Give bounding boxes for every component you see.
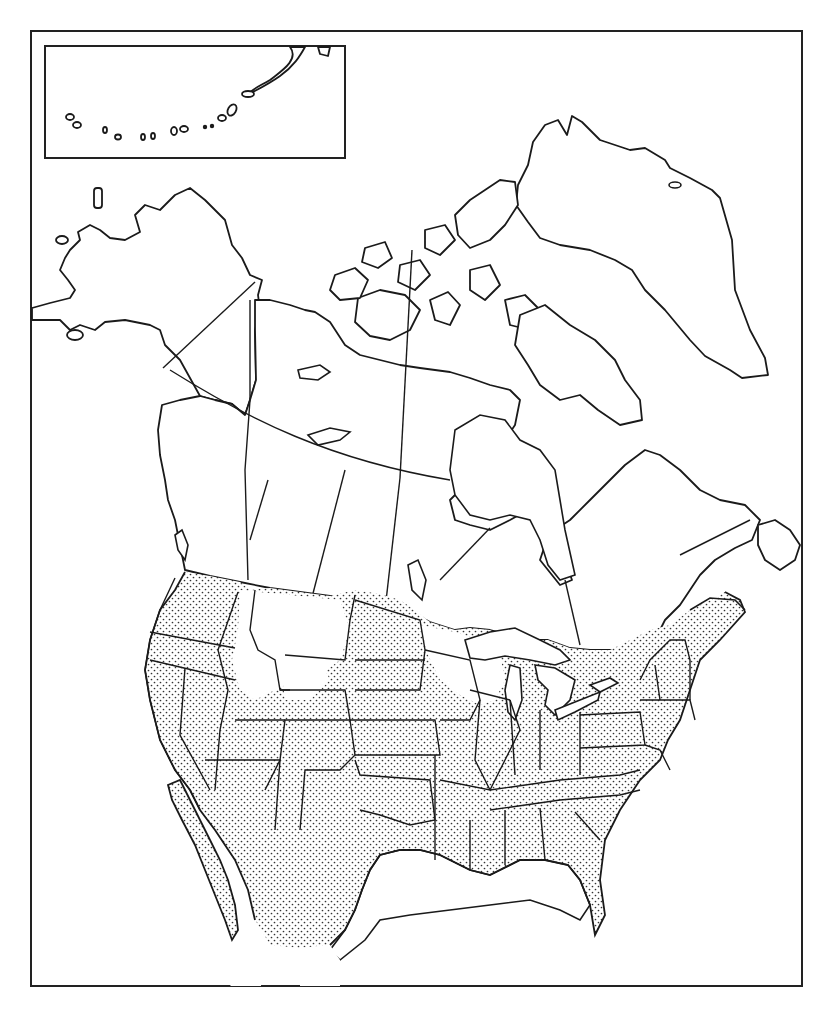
- aleutian-islands: [66, 47, 330, 140]
- baffin-island: [515, 305, 642, 425]
- newfoundland: [758, 520, 800, 570]
- victoria-island: [355, 290, 420, 340]
- alaska: [32, 188, 262, 415]
- north-america-map: [0, 0, 834, 1014]
